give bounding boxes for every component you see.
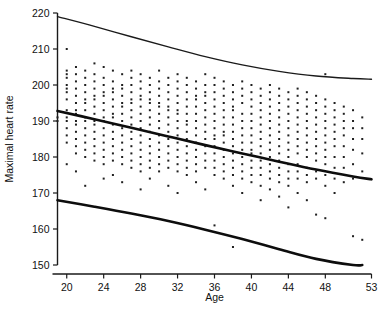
data-point — [112, 113, 114, 115]
chart-container: 150160170180190200210220 202428323640444… — [0, 0, 387, 314]
x-axis-tick-label: 24 — [98, 281, 110, 293]
data-point — [241, 113, 243, 115]
data-point — [297, 192, 299, 194]
data-point — [260, 199, 262, 201]
data-point — [177, 95, 179, 97]
data-point — [121, 95, 123, 97]
data-point — [57, 120, 59, 122]
data-point — [167, 91, 169, 93]
data-point — [315, 214, 317, 216]
data-point — [112, 131, 114, 133]
data-point — [195, 163, 197, 165]
data-point — [214, 77, 216, 79]
data-point — [297, 109, 299, 111]
data-point — [195, 127, 197, 129]
data-point — [204, 131, 206, 133]
data-point — [195, 120, 197, 122]
data-point — [306, 113, 308, 115]
data-point — [306, 91, 308, 93]
data-point — [158, 163, 160, 165]
data-point — [121, 142, 123, 144]
data-point — [103, 178, 105, 180]
data-point — [269, 134, 271, 136]
data-point — [84, 149, 86, 151]
data-point — [278, 196, 280, 198]
data-point — [177, 80, 179, 82]
data-point — [149, 167, 151, 169]
data-point — [223, 163, 225, 165]
data-point — [112, 106, 114, 108]
data-point — [75, 120, 77, 122]
data-point — [269, 98, 271, 100]
data-point — [278, 116, 280, 118]
data-point — [93, 88, 95, 90]
data-point — [93, 138, 95, 140]
data-point — [167, 106, 169, 108]
data-point — [214, 224, 216, 226]
data-point — [140, 95, 142, 97]
data-point — [306, 199, 308, 201]
data-point — [343, 120, 345, 122]
data-point — [204, 95, 206, 97]
data-point — [103, 102, 105, 104]
data-point — [66, 84, 68, 86]
data-point — [260, 124, 262, 126]
data-point — [66, 134, 68, 136]
data-point — [66, 142, 68, 144]
data-point — [177, 163, 179, 165]
data-point — [103, 134, 105, 136]
data-point — [223, 170, 225, 172]
data-point — [75, 66, 77, 68]
data-point — [214, 152, 216, 154]
data-point — [75, 152, 77, 154]
y-axis-tick-label: 200 — [32, 79, 50, 91]
data-point — [204, 160, 206, 162]
data-point — [186, 113, 188, 115]
data-point — [75, 170, 77, 172]
data-point — [241, 149, 243, 151]
data-point — [130, 102, 132, 104]
data-point — [186, 160, 188, 162]
data-point — [177, 192, 179, 194]
data-point — [315, 138, 317, 140]
y-axis-tick-label: 160 — [32, 223, 50, 235]
data-point — [315, 178, 317, 180]
x-axis-tick-label: 28 — [135, 281, 147, 293]
data-point — [250, 181, 252, 183]
data-point — [278, 181, 280, 183]
data-point — [177, 88, 179, 90]
data-point — [334, 124, 336, 126]
data-point — [269, 142, 271, 144]
data-point — [260, 145, 262, 147]
data-point — [343, 134, 345, 136]
data-point — [241, 170, 243, 172]
data-point — [204, 73, 206, 75]
data-point — [214, 160, 216, 162]
data-point — [84, 142, 86, 144]
data-point — [140, 120, 142, 122]
data-point — [278, 152, 280, 154]
x-axis-tick-label: 48 — [319, 281, 331, 293]
data-point — [297, 145, 299, 147]
data-point — [306, 174, 308, 176]
data-point — [121, 156, 123, 158]
data-point — [66, 88, 68, 90]
data-point — [214, 134, 216, 136]
data-point — [214, 167, 216, 169]
data-point — [195, 149, 197, 151]
data-point — [167, 145, 169, 147]
data-point — [306, 98, 308, 100]
data-point — [103, 109, 105, 111]
data-point — [93, 152, 95, 154]
data-point — [352, 127, 354, 129]
data-point — [334, 102, 336, 104]
data-point — [112, 70, 114, 72]
data-point — [287, 91, 289, 93]
data-point — [158, 95, 160, 97]
data-point — [334, 131, 336, 133]
data-point — [241, 95, 243, 97]
data-point — [130, 109, 132, 111]
data-point — [260, 109, 262, 111]
data-point — [112, 98, 114, 100]
data-point — [306, 120, 308, 122]
